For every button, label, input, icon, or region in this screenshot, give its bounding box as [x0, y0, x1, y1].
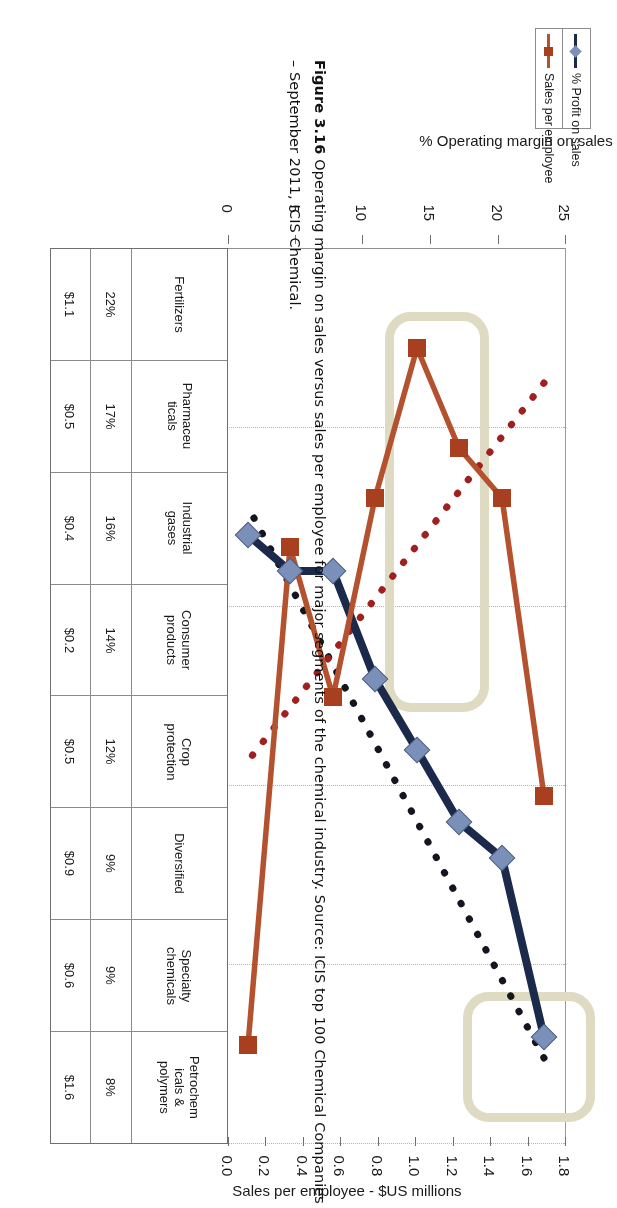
table-cell-segment: Petrochemicals &polymers [131, 1032, 227, 1143]
right-axis-title: Sales per employee - $US millions [197, 1182, 497, 1208]
table-cell-sales: $0.5 [49, 697, 90, 808]
right-tick-label-0-8: 0.8 [364, 1161, 392, 1178]
table-cell-segment: Pharmaceuticals [131, 361, 227, 472]
segment-label-6: Pharmaceuticals [165, 383, 195, 449]
figure-caption: Figure 3.16 Operating margin on sales ve… [258, 60, 332, 1208]
table-row: Cropprotection 12% $0.5 [51, 696, 227, 808]
tick-20 [498, 235, 499, 244]
table-row: Fertilizers 22% $1.1 [51, 249, 227, 360]
tick-1-2 [453, 1137, 454, 1146]
table-cell-segment: Fertilizers [131, 249, 227, 360]
legend-label-profit: % Profit on sales [570, 73, 584, 167]
table-cell-segment: Cropprotection [131, 697, 227, 808]
right-tick-label-1-4: 1.4 [476, 1161, 504, 1178]
tick-1-6 [528, 1137, 529, 1146]
left-tick-label-10: 10 [349, 209, 375, 226]
segment-label-4: Consumerproducts [165, 610, 195, 670]
chart-legend: % Profit on sales Sales per employee [490, 1, 591, 129]
tick-15 [430, 235, 431, 244]
table-cell-sales: $0.9 [49, 808, 90, 919]
left-tick-label-25: 25 [552, 209, 578, 226]
table-cell-percent: 8% [90, 1032, 131, 1143]
table-cell-percent: 14% [90, 585, 131, 696]
tick-10 [362, 235, 363, 244]
table-row: Diversified 9% $0.9 [51, 807, 227, 919]
right-tick-label-1-8: 1.8 [551, 1161, 579, 1178]
table-row: Pharmaceuticals 17% $0.5 [51, 360, 227, 472]
data-table: Petrochemicals &polymers 8% $1.6 Special… [50, 248, 228, 1144]
left-tick-label-0: 0 [215, 209, 241, 226]
table-cell-percent: 22% [90, 249, 131, 360]
table-cell-percent: 9% [90, 808, 131, 919]
table-cell-sales: $0.2 [49, 585, 90, 696]
tick-25 [565, 235, 566, 244]
table-row: Consumerproducts 14% $0.2 [51, 584, 227, 696]
right-tick-label-1-6: 1.6 [514, 1161, 542, 1178]
table-cell-sales: $1.6 [49, 1032, 90, 1143]
legend-swatch-profit-icon [570, 34, 584, 68]
table-row: Petrochemicals &polymers 8% $1.6 [51, 1031, 227, 1143]
legend-label-sales: Sales per employee [542, 73, 556, 183]
tick-0-8 [378, 1137, 379, 1146]
table-cell-segment: Industrialgases [131, 473, 227, 584]
legend-swatch-sales-icon [542, 34, 556, 68]
table-cell-percent: 16% [90, 473, 131, 584]
left-tick-label-20: 20 [485, 209, 511, 226]
table-cell-percent: 9% [90, 920, 131, 1031]
tick-0-6 [340, 1137, 341, 1146]
right-tick-label-1-0: 1.0 [401, 1161, 429, 1178]
right-tick-label-0-0: 0.0 [214, 1161, 242, 1178]
tick-1-0 [415, 1137, 416, 1146]
tick-0-0 [228, 1137, 229, 1146]
segment-label-0: Petrochemicals &polymers [157, 1056, 202, 1119]
table-cell-segment: Consumerproducts [131, 585, 227, 696]
tick-1-4 [490, 1137, 491, 1146]
segment-label-1: Specialtychemicals [165, 947, 195, 1005]
segment-label-5: Industrialgases [165, 502, 195, 555]
table-cell-percent: 12% [90, 697, 131, 808]
legend-item-profit-on-sales: % Profit on sales [563, 28, 591, 129]
table-cell-sales: $0.4 [49, 473, 90, 584]
table-cell-sales: $0.6 [49, 920, 90, 1031]
table-row: Specialtychemicals 9% $0.6 [51, 919, 227, 1031]
tick-1-8 [565, 1137, 566, 1146]
legend-item-sales-per-employee: Sales per employee [535, 28, 563, 129]
table-cell-segment: Diversified [131, 808, 227, 919]
left-tick-label-15: 15 [417, 209, 443, 226]
table-cell-segment: Specialtychemicals [131, 920, 227, 1031]
figure-caption-text: Operating margin on sales versus sales p… [287, 60, 328, 1204]
table-row: Industrialgases 16% $0.4 [51, 472, 227, 584]
table-cell-sales: $1.1 [49, 249, 90, 360]
table-cell-percent: 17% [90, 361, 131, 472]
figure-number: Figure 3.16 [312, 60, 328, 155]
tick-0 [228, 235, 229, 244]
table-cell-sales: $0.5 [49, 361, 90, 472]
segment-label-3: Cropprotection [165, 723, 195, 780]
right-tick-label-1-2: 1.2 [439, 1161, 467, 1178]
